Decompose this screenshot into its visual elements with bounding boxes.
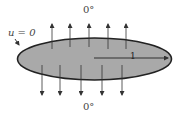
bottom-temperature-label: 0° [83, 102, 94, 112]
boundary-pointer-arrow [15, 39, 19, 45]
boundary-condition-label: u = 0 [8, 28, 36, 38]
top-temperature-label: 0° [83, 5, 94, 15]
elliptical-region [18, 38, 172, 80]
radius-label: 1 [130, 52, 136, 61]
